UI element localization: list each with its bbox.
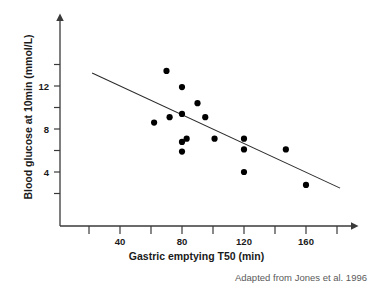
data-point bbox=[184, 136, 190, 142]
y-axis-ticks bbox=[54, 65, 60, 194]
data-point bbox=[283, 146, 289, 152]
trend-line bbox=[92, 73, 340, 188]
scatter-plot: 4812 4080120160 bbox=[0, 0, 375, 289]
y-axis-title: Blood glucose at 10min (mmol/L) bbox=[22, 12, 34, 222]
y-tick-label: 12 bbox=[38, 81, 49, 92]
data-point bbox=[167, 114, 173, 120]
data-point bbox=[202, 114, 208, 120]
data-point bbox=[303, 182, 309, 188]
data-point bbox=[179, 148, 185, 154]
y-tick-label: 8 bbox=[44, 124, 49, 135]
data-point bbox=[179, 84, 185, 90]
x-axis-ticks bbox=[89, 226, 337, 234]
chart-figure: 4812 4080120160 Gastric emptying T50 (mi… bbox=[0, 0, 375, 289]
x-tick-label: 80 bbox=[177, 236, 188, 247]
data-point bbox=[163, 68, 169, 74]
data-point bbox=[211, 136, 217, 142]
data-point bbox=[241, 136, 247, 142]
x-tick-label: 160 bbox=[298, 236, 314, 247]
data-point bbox=[179, 111, 185, 117]
data-point bbox=[241, 146, 247, 152]
y-axis-tick-labels: 4812 bbox=[38, 81, 49, 178]
x-axis-title: Gastric emptying T50 (min) bbox=[0, 250, 375, 262]
x-tick-label: 40 bbox=[115, 236, 126, 247]
data-point bbox=[194, 100, 200, 106]
data-point bbox=[241, 169, 247, 175]
data-point bbox=[151, 119, 157, 125]
y-tick-label: 4 bbox=[44, 167, 50, 178]
x-axis-tick-labels: 4080120160 bbox=[115, 236, 314, 247]
x-tick-label: 120 bbox=[236, 236, 252, 247]
source-caption: Adapted from Jones et al. 1996 bbox=[235, 272, 367, 283]
axes bbox=[60, 20, 352, 226]
data-points bbox=[151, 68, 309, 188]
